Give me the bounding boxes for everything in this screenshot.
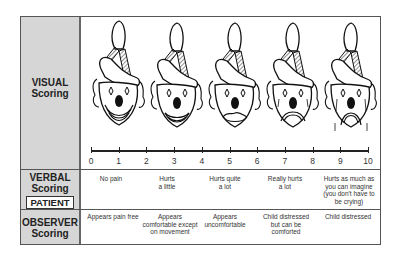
verbal-cell-1: Hurts a little [139, 175, 195, 190]
axis-tick [146, 147, 147, 153]
cell-line: Hurts quite [197, 175, 253, 183]
faces-row [81, 17, 381, 155]
cell-line: a lot [197, 183, 253, 191]
axis-label: 5 [223, 156, 237, 166]
visual-scoring-label: VISUAL Scoring [21, 77, 79, 99]
cell-line: comforted [257, 228, 315, 236]
axis-tick [285, 147, 286, 153]
axis-tick [340, 147, 341, 153]
label-line: Scoring [21, 88, 79, 99]
axis-label: 8 [306, 156, 320, 166]
cell-line: (you don't have to [317, 190, 381, 198]
clown-face-3 [267, 23, 318, 127]
clown-face-1 [151, 23, 202, 127]
cell-line: you can imagine [317, 183, 381, 191]
axis-label: 1 [112, 156, 126, 166]
cell-line: comfortable except [139, 221, 201, 229]
cell-line: uncomfortable [197, 221, 253, 229]
axis-tick [119, 147, 120, 153]
axis-label: 4 [195, 156, 209, 166]
clown-face-2 [209, 23, 260, 127]
label-line: VISUAL [21, 77, 79, 88]
label-line: VERBAL [21, 172, 79, 183]
verbal-scoring-label: VERBAL Scoring PATIENT [21, 172, 79, 209]
observer-cell-1: Appears comfortable except on movement [139, 213, 201, 236]
axis-label: 0 [84, 156, 98, 166]
verbal-cell-4: Hurts as much as you can imagine (you do… [317, 175, 381, 205]
observer-scoring-label: OBSERVER Scoring [21, 217, 79, 239]
axis-label: 3 [167, 156, 181, 166]
row-divider [21, 209, 380, 210]
cell-line: Hurts as much as [317, 175, 381, 183]
verbal-cell-2: Hurts quite a lot [197, 175, 253, 190]
axis-tick [368, 147, 369, 153]
axis-label: 6 [250, 156, 264, 166]
axis-tick [257, 147, 258, 153]
pain-scale-table: VISUAL Scoring VERBAL Scoring PATIENT OB… [20, 16, 381, 245]
cell-line: a little [139, 183, 195, 191]
patient-badge: PATIENT [26, 196, 73, 209]
observer-cell-2: Appears uncomfortable [197, 213, 253, 228]
clown-faces-illustration [81, 17, 381, 155]
label-line: Scoring [21, 183, 79, 194]
label-line: Scoring [21, 228, 79, 239]
cell-line: a lot [257, 183, 313, 191]
cell-line: Hurts [139, 175, 195, 183]
observer-cell-3: Child distressed but can be comforted [257, 213, 315, 236]
axis-label: 7 [278, 156, 292, 166]
axis-tick [230, 147, 231, 153]
cell-line: Child distressed [317, 213, 379, 221]
label-line: OBSERVER [21, 217, 79, 228]
axis-label: 10 [361, 156, 375, 166]
cell-line: Really hurts [257, 175, 313, 183]
axis-label: 9 [333, 156, 347, 166]
cell-line: but can be [257, 221, 315, 229]
cell-line: Appears pain free [83, 213, 143, 221]
cell-line: Appears [197, 213, 253, 221]
clown-face-0 [93, 21, 144, 125]
observer-cell-0: Appears pain free [83, 213, 143, 221]
cell-line: be crying) [317, 198, 381, 206]
observer-cell-4: Child distressed [317, 213, 379, 221]
axis-tick [313, 147, 314, 153]
verbal-cell-3: Really hurts a lot [257, 175, 313, 190]
cell-line: No pain [83, 175, 139, 183]
axis-tick [91, 147, 92, 153]
axis-label: 2 [139, 156, 153, 166]
cell-line: Appears [139, 213, 201, 221]
axis-tick [174, 147, 175, 153]
clown-face-4 [325, 23, 376, 131]
axis-tick [202, 147, 203, 153]
verbal-cell-0: No pain [83, 175, 139, 183]
cell-line: Child distressed [257, 213, 315, 221]
pain-scale-axis [91, 150, 369, 152]
cell-line: on movement [139, 228, 201, 236]
row-divider [21, 169, 380, 170]
